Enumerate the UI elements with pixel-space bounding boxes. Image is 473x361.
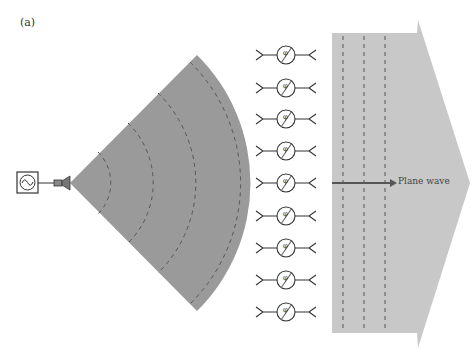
signal-source-icon bbox=[17, 172, 54, 193]
phase-symbol: φ bbox=[283, 210, 288, 218]
phase-symbol: φ bbox=[283, 145, 288, 153]
phase-symbol: φ bbox=[283, 113, 288, 121]
phase-symbol: φ bbox=[283, 49, 288, 57]
horn-antenna-icon bbox=[54, 176, 70, 190]
phase-symbol: φ bbox=[283, 177, 288, 185]
phase-symbol: φ bbox=[283, 274, 288, 282]
phase-symbol: φ bbox=[283, 242, 288, 250]
spherical-wave-sector bbox=[70, 55, 250, 311]
phase-symbol: φ bbox=[283, 82, 288, 90]
phase-symbol: φ bbox=[283, 306, 288, 314]
plane-wave-label: Plane wave bbox=[398, 176, 450, 186]
